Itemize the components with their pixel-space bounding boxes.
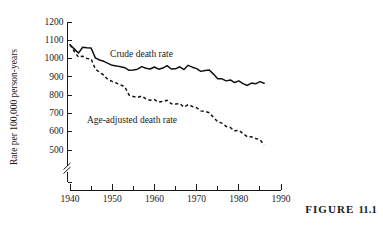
y-tick-label: 1000 [45,53,64,63]
x-axis: 194019501960197019801990 [61,184,291,204]
death-rate-line-chart: 500600700800900100011001200 Rate per 100… [0,0,383,229]
y-tick-label: 900 [49,72,64,82]
figure-caption-label: FIGURE [305,203,354,215]
y-tick-label: 500 [49,145,64,155]
x-tick-label: 1960 [145,194,164,204]
y-axis-tick-labels: 500600700800900100011001200 [45,17,64,155]
chart-series-group [70,45,264,145]
y-tick-label: 600 [49,126,64,136]
y-tick-label: 1100 [45,35,64,45]
x-tick-label: 1950 [103,194,122,204]
x-tick-label: 1990 [272,194,291,204]
y-tick-label: 1200 [45,17,64,27]
x-axis-tick-labels: 194019501960197019801990 [61,194,291,204]
y-tick-label: 700 [49,108,64,118]
figure-caption: FIGURE 11.1 [305,203,377,215]
x-tick-label: 1970 [187,194,206,204]
x-axis-ticks [70,184,281,190]
figure-caption-number: 11.1 [358,204,377,215]
y-axis-title: Rate per 100,000 person-years [9,49,19,165]
crude-death-rate-label: Crude death rate [110,49,173,59]
figure-container: 500600700800900100011001200 Rate per 100… [0,0,383,229]
y-axis: 500600700800900100011001200 Rate per 100… [9,17,72,182]
x-tick-label: 1980 [229,194,248,204]
age-adjusted-death-rate-label: Age-adjusted death rate [87,115,177,125]
y-tick-label: 800 [49,90,64,100]
x-tick-label: 1940 [61,194,80,204]
